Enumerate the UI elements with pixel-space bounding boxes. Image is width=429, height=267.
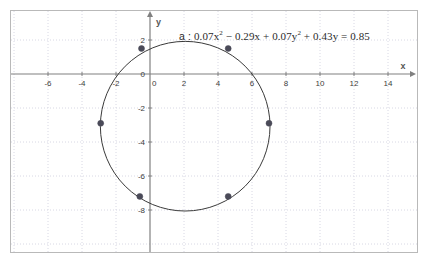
x-tick-label: 10: [316, 79, 325, 88]
axis-lines: [11, 11, 416, 252]
data-point[interactable]: [225, 193, 231, 199]
x-tick-label: -4: [78, 79, 86, 88]
x-tick-label: -6: [44, 79, 52, 88]
y-tick-label: 0: [141, 70, 146, 79]
y-tick-label: -4: [138, 138, 146, 147]
equation-separator: :: [185, 30, 194, 42]
y-tick-label: -8: [138, 206, 146, 215]
equation-label[interactable]: a : 0.07x2 − 0.29x + 0.07y2 + 0.43y = 0.…: [179, 29, 370, 42]
graph-panel[interactable]: -6-4-20246810121420-2-4-6-8 xy a : 0.07x…: [10, 10, 418, 253]
x-axis-name: x: [400, 61, 405, 71]
data-point[interactable]: [137, 193, 143, 199]
x-tick-label: 2: [182, 79, 187, 88]
data-point[interactable]: [139, 46, 145, 52]
y-tick-label: -2: [138, 104, 146, 113]
x-axis-arrow: [410, 71, 416, 77]
y-tick-label: -6: [138, 172, 146, 181]
x-tick-label: 8: [284, 79, 289, 88]
graph-screenshot: -6-4-20246810121420-2-4-6-8 xy a : 0.07x…: [0, 0, 429, 267]
equation-term-3: + 0.43y = 0.85: [301, 30, 370, 42]
x-tick-label: 0: [152, 79, 157, 88]
y-axis-arrow: [147, 11, 153, 17]
y-tick-label: 2: [141, 36, 146, 45]
x-tick-label: 4: [216, 79, 221, 88]
data-point[interactable]: [98, 120, 104, 126]
circle-curve[interactable]: [100, 41, 270, 211]
tick-labels: -6-4-20246810121420-2-4-6-8: [44, 36, 393, 215]
conic-circle[interactable]: [100, 41, 270, 211]
axis-name-labels: xy: [156, 17, 406, 71]
x-tick-label: 14: [384, 79, 393, 88]
coordinate-plane[interactable]: -6-4-20246810121420-2-4-6-8 xy: [11, 11, 417, 252]
data-point[interactable]: [225, 46, 231, 52]
x-tick-label: 6: [250, 79, 255, 88]
x-tick-label: 12: [350, 79, 359, 88]
y-axis-name: y: [156, 17, 161, 27]
equation-term-2: − 0.29x + 0.07y: [223, 30, 298, 42]
data-point[interactable]: [266, 120, 272, 126]
equation-term-1: 0.07x: [194, 30, 219, 42]
grid-lines: [11, 11, 417, 252]
